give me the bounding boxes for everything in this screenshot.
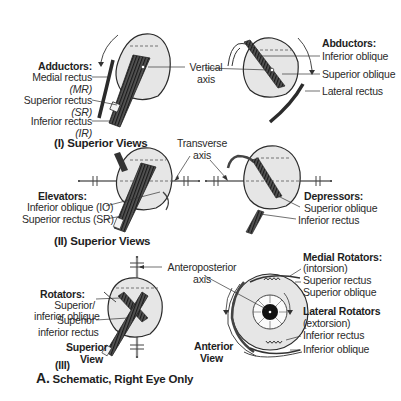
transverse-axis-label-1: Transverse [172, 137, 232, 149]
figure-caption: A. Schematic, Right Eye Only [36, 372, 193, 385]
inferior-rectus-depressor-label: Inferior rectus [298, 214, 359, 226]
eyeball-adductors [92, 34, 185, 127]
vertical-axis-label-2: axis [184, 73, 228, 85]
superior-view-label-1: Superior [66, 341, 108, 353]
lateral-inferior-rectus-label: Inferior rectus [303, 329, 364, 341]
figure-caption-letter: A. [36, 370, 50, 386]
lateral-rectus-label: Lateral rectus [322, 85, 383, 97]
panel3-number: (III) [55, 359, 70, 371]
abductors-title: Abductors: [322, 37, 376, 49]
superior-rectus-sr-label: Superior rectus (SR) [22, 213, 114, 225]
panel1-caption: (I) Superior Views [54, 137, 147, 149]
panel2-caption: (II) Superior Views [54, 235, 150, 247]
inferior-oblique-io-label: Inferior oblique (IO) [27, 201, 113, 213]
lateral-inferior-oblique-label: Inferior oblique [303, 343, 369, 355]
figure-caption-text: Schematic, Right Eye Only [53, 373, 194, 385]
vertical-axis-label-1: Vertical [184, 61, 228, 73]
anteroposterior-axis-label-2: axis [162, 273, 242, 285]
extorsion-label: (extorsion) [303, 317, 350, 329]
eye-muscle-diagram: Adductors: Medial rectus (MR) Superior r… [0, 0, 401, 401]
medial-rectus-label: Medial rectus [10, 71, 92, 83]
transverse-axis-label-2: axis [172, 149, 232, 161]
superior-rectus-label: Superior rectus [0, 94, 92, 106]
superior-oblique-label: Superior oblique [322, 68, 395, 80]
superior-view-label-2: View [80, 353, 103, 365]
depressors-title: Depressors: [304, 190, 363, 202]
anteroposterior-axis-label-1: Anteroposterior [162, 261, 242, 273]
anterior-view-label-1: Anterior [194, 340, 233, 352]
inferior-rectus-label: Inferior rectus [0, 115, 92, 127]
superior-oblique-depressor-label: Superior oblique [304, 202, 377, 214]
medial-superior-oblique-label: Superior oblique [303, 286, 376, 298]
medial-superior-rectus-label: Superior rectus [303, 274, 371, 286]
intorsion-label: (intorsion) [303, 262, 347, 274]
anterior-view-label-2: View [200, 352, 223, 364]
lateral-rotators-title: Lateral Rotators [303, 305, 380, 317]
superior-inferior-rectus-label-2: inferior rectus [38, 326, 99, 338]
superior-inferior-rectus-label-1: Superior [20, 314, 95, 326]
inferior-oblique-label: Inferior oblique [322, 50, 388, 62]
